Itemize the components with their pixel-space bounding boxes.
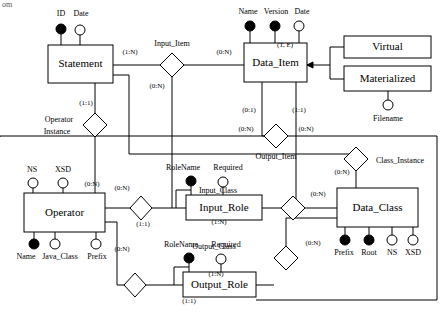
entity-materialized[interactable]: Materialized xyxy=(344,66,431,91)
attribute-inputrole-rolename-label: RoleName xyxy=(166,163,201,172)
attribute-dataclass-ns-label: NS xyxy=(387,248,397,257)
entity-operator[interactable]: Operator xyxy=(24,193,105,232)
attribute-operator-name-label: Name xyxy=(16,252,36,261)
attribute-operator-javaclass[interactable]: Java_Class xyxy=(42,239,78,261)
cardinality-label: (0:N) xyxy=(305,239,321,247)
attribute-statement-id[interactable]: ID xyxy=(56,9,66,34)
entity-output-role-label: Output_Role xyxy=(191,278,248,290)
attribute-operator-xsd-label: XSD xyxy=(55,165,71,174)
attribute-statement-id-label: ID xyxy=(57,9,66,18)
attribute-dataitem-version[interactable]: Version xyxy=(264,7,288,31)
attribute-outputrole-required-label: Required xyxy=(211,240,240,249)
relationship-operator-instance[interactable]: Operator Instance xyxy=(44,113,107,137)
cardinality-label: (0:N) xyxy=(84,180,100,188)
cardinality-label: (0:N) xyxy=(298,125,314,133)
cardinality-label: (1:1) xyxy=(292,106,306,114)
attribute-dataitem-name-label: Name xyxy=(238,7,258,16)
attribute-materialized-filename-label: Filename xyxy=(373,114,403,123)
cardinality-label: (0:N) xyxy=(114,245,130,253)
cardinality-label: (0:N) xyxy=(149,82,165,90)
relationship-input-item[interactable]: Input_Item xyxy=(154,39,190,77)
attribute-operator-javaclass-label: Java_Class xyxy=(42,252,78,261)
cardinality-label: (0:N) xyxy=(334,168,350,176)
entity-data-item-label: Data_Item xyxy=(252,56,299,68)
attribute-dataitem-version-label: Version xyxy=(264,7,288,16)
attribute-dataclass-root[interactable]: Root xyxy=(361,235,377,257)
relationship-class-instance-label: Class_Instance xyxy=(376,156,424,165)
relationship-operator-instance-label-2: Instance xyxy=(44,127,71,136)
attribute-dataclass-prefix[interactable]: Prefix xyxy=(334,235,354,257)
relationship-operator-input[interactable] xyxy=(130,196,152,220)
entity-statement[interactable]: Statement xyxy=(48,45,113,83)
relationship-input-class-label: Input_Class xyxy=(199,186,237,195)
attribute-operator-ns[interactable]: NS xyxy=(27,165,38,188)
attribute-dataitem-date[interactable]: Date xyxy=(294,7,310,31)
entity-data-class-label: Data_Class xyxy=(352,201,402,213)
entity-statement-label: Statement xyxy=(59,57,103,69)
isa-arrow-icon xyxy=(307,62,313,68)
cardinality-labels: (1:N) (0:N) (0:N) (1:1) (0:1) (1:1) (0:N… xyxy=(79,41,350,305)
attribute-inputrole-required-label: Required xyxy=(213,163,242,172)
attribute-statement-date[interactable]: Date xyxy=(73,9,89,35)
er-diagram-root: om xyxy=(0,0,445,313)
relationship-output-class[interactable]: Output_Class xyxy=(192,242,298,270)
relationship-operator-output[interactable] xyxy=(124,273,146,297)
cardinality-label: (1:N) xyxy=(208,270,224,278)
entity-virtual[interactable]: Virtual xyxy=(344,36,431,58)
entity-data-item[interactable]: Data_Item xyxy=(244,43,307,82)
relationship-output-item-label: Output_Item xyxy=(256,152,298,161)
cardinality-label: (0:N) xyxy=(216,48,232,56)
attribute-inputrole-required[interactable]: Required xyxy=(213,163,242,187)
attribute-materialized-filename[interactable]: Filename xyxy=(373,100,403,123)
entity-input-role[interactable]: Input_Role xyxy=(186,195,262,220)
attribute-operator-prefix[interactable]: Prefix xyxy=(87,239,107,261)
attribute-dataclass-prefix-label: Prefix xyxy=(334,248,354,257)
cardinality-label: (0:N) xyxy=(114,184,130,192)
cardinality-label: (0:N) xyxy=(238,125,254,133)
entity-operator-label: Operator xyxy=(45,206,84,218)
attribute-statement-date-label: Date xyxy=(73,9,89,18)
isa-constraint-label: (T, E) xyxy=(277,41,294,49)
cardinality-label: (1:N) xyxy=(211,218,227,226)
attribute-inputrole-rolename[interactable]: RoleName xyxy=(166,163,201,186)
attribute-dataitem-date-label: Date xyxy=(294,7,310,16)
attribute-operator-name[interactable]: Name xyxy=(16,239,39,261)
er-diagram-canvas: Statement Data_Item Virtual Materialized… xyxy=(0,0,445,313)
relationship-operator-instance-label-1: Operator xyxy=(45,115,74,124)
attribute-outputrole-rolename[interactable]: RoleName xyxy=(164,240,199,263)
attribute-operator-xsd[interactable]: XSD xyxy=(55,165,71,188)
attribute-outputrole-required[interactable]: Required xyxy=(211,240,240,264)
cardinality-label: (1:1) xyxy=(79,99,93,107)
attribute-dataclass-xsd[interactable]: XSD xyxy=(405,235,421,257)
attribute-outputrole-rolename-label: RoleName xyxy=(164,240,199,249)
cardinality-label: (1:N) xyxy=(122,48,138,56)
attribute-operator-prefix-label: Prefix xyxy=(87,252,107,261)
entity-virtual-label: Virtual xyxy=(372,40,403,52)
cardinality-label: (0:N) xyxy=(310,190,326,198)
entity-materialized-label: Materialized xyxy=(360,72,416,84)
entity-data-class[interactable]: Data_Class xyxy=(337,188,418,227)
attribute-dataclass-xsd-label: XSD xyxy=(405,248,421,257)
attribute-dataclass-ns[interactable]: NS xyxy=(387,235,397,257)
relationship-class-instance[interactable]: Class_Instance xyxy=(344,147,424,171)
cardinality-label: (0:1) xyxy=(242,106,256,114)
attribute-dataitem-name[interactable]: Name xyxy=(238,7,258,31)
attribute-dataclass-root-label: Root xyxy=(361,248,377,257)
relationship-input-item-label: Input_Item xyxy=(154,39,190,48)
cardinality-label: (1:1) xyxy=(136,220,150,228)
attribute-operator-ns-label: NS xyxy=(27,165,37,174)
entity-input-role-label: Input_Role xyxy=(199,201,249,213)
cardinality-label: (1:1) xyxy=(182,297,196,305)
